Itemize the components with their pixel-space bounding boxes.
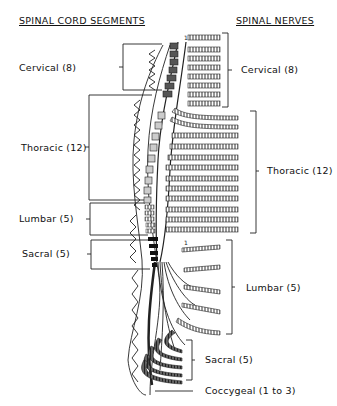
left-label-lumbar: Lumbar (5) [19,213,74,224]
thoracic-segment-bracket [85,95,152,200]
right-label-cervical: Cervical (8) [241,64,298,75]
right-label-sacral: Sacral (5) [205,354,253,365]
left-label-sacral: Sacral (5) [22,248,70,259]
c1-marker: 1 [184,34,188,41]
cervical-nerve-bracket [222,33,232,107]
thoracic-cord-segments [144,112,165,203]
sacral-nerve-bracket [186,340,195,380]
right-label-coccygeal: Coccygeal (1 to 3) [205,385,296,396]
spinal-cord-diagram: 1 1 [0,0,337,406]
cervical-segment-bracket [119,44,162,90]
right-label-lumbar: Lumbar (5) [246,282,301,293]
thoracic-nerve-bracket [250,111,259,233]
left-label-thoracic: Thoracic (12) [21,142,87,153]
cervical-cord-segments [163,43,178,97]
thoracic-nerves [166,108,238,232]
l1-marker: 1 [184,239,188,246]
lumbar-nerve-bracket [226,240,235,334]
lumbar-nerves [176,245,220,335]
lumbar-cord-segments [145,205,155,233]
right-label-thoracic: Thoracic (12) [267,165,333,176]
cervical-nerves [188,35,220,106]
left-label-cervical: Cervical (8) [19,62,76,73]
